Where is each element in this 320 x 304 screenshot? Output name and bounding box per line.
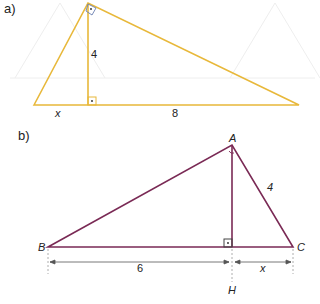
vertex-b-label: B (38, 241, 45, 253)
figure-b-label: b) (18, 128, 30, 143)
vertex-c-label: C (297, 241, 305, 253)
segment-x-label: x (54, 107, 61, 119)
figure-a-label: a) (4, 1, 16, 16)
triangle-b (48, 145, 293, 247)
segment-hc-label: x (259, 262, 266, 274)
vertex-a-label: A (228, 132, 236, 144)
figure-b: b) A B C H 4 6 x (18, 128, 305, 296)
side-ac-label: 4 (267, 181, 273, 193)
figure-a: a) 4 x 8 (4, 1, 299, 119)
segment-bh-label: 6 (137, 262, 143, 274)
geometry-diagram: a) 4 x 8 b) (0, 0, 320, 304)
segment-8-label: 8 (172, 107, 178, 119)
triangle-a (34, 3, 299, 105)
vertex-h-label: H (228, 284, 236, 296)
altitude-label: 4 (91, 48, 97, 60)
